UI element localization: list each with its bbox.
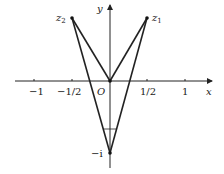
point-minus-i — [108, 151, 112, 155]
tick-label-1: 1 — [182, 86, 188, 97]
x-axis-label: x — [206, 86, 212, 97]
origin-label: O — [97, 86, 105, 97]
tick-label-half: 1/2 — [140, 86, 156, 97]
tick-label-neg-half: −1/2 — [57, 86, 81, 97]
point-z2 — [70, 16, 74, 20]
point-z1 — [145, 16, 149, 20]
complex-plane-diagram: y x O −1 −1/2 1/2 1 z2 z1 −i — [0, 0, 224, 174]
z1-label: z1 — [151, 12, 162, 25]
tick-label-neg1: −1 — [29, 86, 44, 97]
minus-i-label: −i — [91, 148, 103, 159]
y-axis-label: y — [96, 3, 103, 14]
point-origin — [108, 79, 112, 83]
z2-label: z2 — [55, 12, 66, 25]
